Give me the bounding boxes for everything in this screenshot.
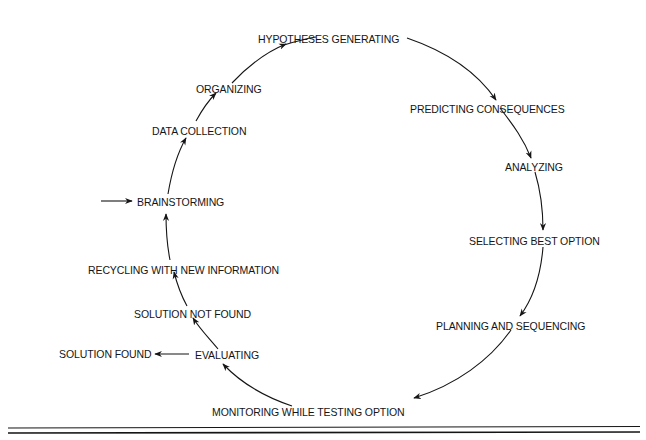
problem-solving-cycle-diagram: HYPOTHESES GENERATING ORGANIZING DATA CO… [0,0,646,440]
cycle-connectors [0,0,646,440]
arrow-monitoring-to-evaluating [223,364,292,406]
node-analyzing: ANALYZING [505,161,563,173]
node-planning-and-sequencing: PLANNING AND SEQUENCING [436,320,585,332]
node-solution-found: SOLUTION FOUND [59,348,152,360]
arrow-organizing-to-hypotheses [232,44,286,83]
node-recycling-with-new-information: RECYCLING WITH NEW INFORMATION [88,264,279,276]
bottom-rule-bottom [8,432,640,433]
node-monitoring-while-testing-option: MONITORING WHILE TESTING OPTION [212,406,405,418]
arrow-predicting-to-analyzing [500,108,531,158]
node-predicting-consequences: PREDICTING CONSEQUENCES [410,103,565,115]
node-data-collection: DATA COLLECTION [152,125,246,137]
node-evaluating: EVALUATING [195,349,259,361]
arrow-brainstorming-to-data-collection [168,138,186,194]
arrow-recycling-to-brainstorming [166,214,170,260]
arrow-data-collection-to-organizing [196,93,216,121]
arrow-evaluating-to-solution-not-found [193,318,218,349]
arrow-hypotheses-to-predicting [407,38,496,100]
bottom-rule-top [8,427,640,429]
node-solution-not-found: SOLUTION NOT FOUND [134,308,251,320]
node-brainstorming: BRAINSTORMING [137,196,224,208]
arrow-selecting-to-planning [520,247,543,316]
arrow-solution-not-found-to-recycling [174,272,187,306]
arrow-planning-to-monitoring [414,330,511,398]
node-selecting-best-option: SELECTING BEST OPTION [469,235,600,247]
node-organizing: ORGANIZING [196,83,262,95]
arrow-analyzing-to-selecting [535,172,543,230]
node-hypotheses-generating: HYPOTHESES GENERATING [258,33,399,45]
